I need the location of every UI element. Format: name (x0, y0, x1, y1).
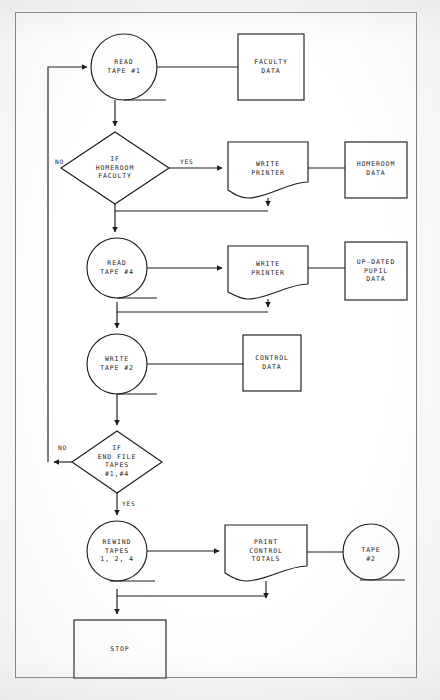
node-tape-2-output[interactable] (343, 524, 405, 580)
edge-feedback-loop (48, 67, 87, 462)
node-faculty-data[interactable] (238, 34, 304, 100)
edge-merge-to-write-tape-2 (117, 299, 268, 328)
homeroom-no-label: NO (55, 158, 64, 166)
flowchart-canvas (0, 0, 440, 700)
homeroom-yes-label: YES (180, 158, 194, 166)
endfile-yes-label: YES (122, 500, 136, 508)
node-print-control-totals[interactable] (225, 525, 307, 581)
edge-merge-to-read-tape-4 (115, 198, 268, 232)
node-rewind-tapes[interactable] (87, 521, 155, 581)
node-write-printer-1[interactable] (228, 142, 308, 198)
edge-merge-to-stop (117, 581, 266, 614)
node-homeroom-data[interactable] (345, 142, 407, 198)
flowchart-page: READ TAPE #1 FACULTY DATA IF HOMEROOM FA… (0, 0, 440, 700)
node-write-printer-2[interactable] (228, 246, 308, 299)
node-if-homeroom-faculty[interactable] (61, 132, 169, 204)
endfile-no-label: NO (58, 444, 67, 452)
node-if-end-file[interactable] (72, 431, 162, 493)
node-write-tape-2[interactable] (87, 334, 157, 394)
node-read-tape-4[interactable] (87, 238, 157, 298)
node-control-data[interactable] (243, 335, 301, 391)
node-read-tape-1[interactable] (91, 34, 166, 100)
node-stop[interactable] (74, 620, 166, 678)
node-updated-pupil-data[interactable] (345, 242, 407, 300)
